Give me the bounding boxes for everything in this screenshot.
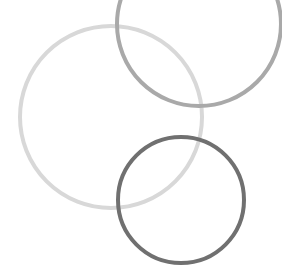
dark-circle bbox=[118, 137, 244, 263]
light-circle bbox=[20, 26, 202, 208]
circles-graphic bbox=[0, 0, 282, 273]
circles-canvas bbox=[0, 0, 282, 273]
